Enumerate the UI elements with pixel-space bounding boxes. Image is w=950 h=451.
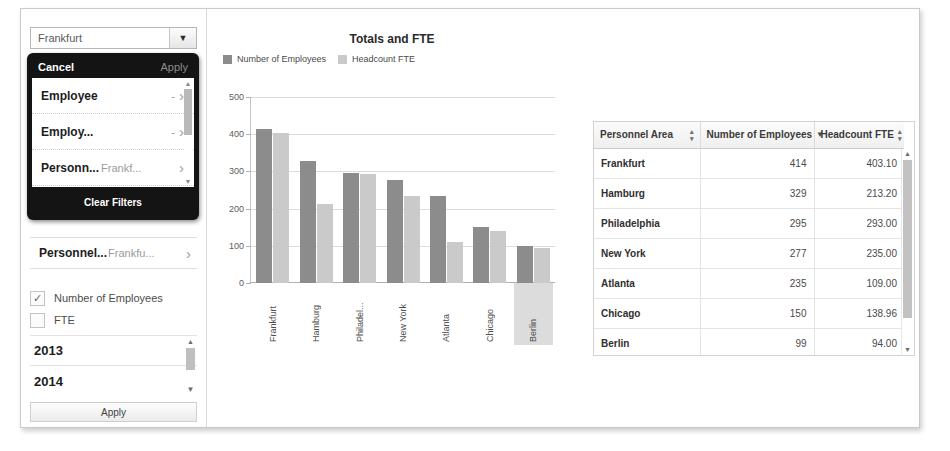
bar-fte[interactable] (317, 204, 333, 283)
bar-group[interactable] (343, 173, 376, 283)
bar-fte[interactable] (273, 133, 289, 283)
y-tick-mark (246, 134, 251, 135)
bar-employees[interactable] (517, 246, 533, 283)
scroll-down-icon[interactable]: ▼ (184, 178, 192, 185)
table-row[interactable]: Berlin9994.00 (594, 328, 904, 356)
x-axis-label-philadel[interactable]: Philadel... (340, 283, 379, 345)
table-row[interactable]: Atlanta235109.00 (594, 268, 904, 298)
cell-personnel-area: Chicago (594, 298, 700, 328)
scrollbar-thumb[interactable] (186, 348, 195, 370)
filter-row-employ-truncated[interactable]: Employ... - › (32, 114, 194, 150)
scroll-down-icon[interactable]: ▼ (902, 345, 913, 354)
x-axis-label-frankfurt[interactable]: Frankfurt (253, 283, 292, 345)
x-axis-label-hamburg[interactable]: Hamburg (297, 283, 336, 345)
cancel-button[interactable]: Cancel (38, 61, 74, 73)
bar-fte[interactable] (404, 196, 420, 283)
table-row[interactable]: Hamburg329213.20 (594, 178, 904, 208)
y-tick-label: 400 (229, 129, 244, 139)
x-axis-label-berlin[interactable]: Berlin (514, 283, 553, 345)
cell-headcount-fte: 403.10 (814, 148, 904, 178)
checkbox-unchecked-icon[interactable] (30, 313, 45, 328)
year-list-scrollbar[interactable]: ▲ ▼ (186, 338, 195, 394)
gridline (251, 97, 555, 98)
column-header-headcount-fte[interactable]: Headcount FTE ▴ ▾ (814, 122, 904, 148)
clear-filters-button[interactable]: Clear Filters (32, 192, 194, 212)
bar-group[interactable] (387, 180, 420, 283)
checkbox-row-fte[interactable]: FTE (30, 309, 197, 331)
x-tick-label: New York (398, 283, 408, 345)
combobox-value[interactable]: Frankfurt (31, 32, 169, 44)
scrollbar-thumb[interactable] (184, 89, 192, 135)
x-axis-label-newyork[interactable]: New York (384, 283, 423, 345)
x-tick-label: Philadel... (355, 283, 365, 345)
chart-legend: Number of Employees Headcount FTE (223, 54, 415, 64)
filter-row-dash: - (171, 90, 175, 102)
bar-employees[interactable] (387, 180, 403, 283)
bar-group[interactable] (473, 227, 506, 283)
gridline (251, 171, 555, 172)
bar-employees[interactable] (430, 196, 446, 283)
chart-title: Totals and FTE (207, 32, 577, 46)
bar-group[interactable] (300, 161, 333, 283)
checkbox-row-number-of-employees[interactable]: ✓ Number of Employees (30, 287, 197, 309)
column-header-number-of-employees[interactable]: Number of Employees ▼ (700, 122, 814, 148)
sort-both-icon[interactable]: ▴ ▾ (898, 128, 902, 142)
scroll-up-icon[interactable]: ▲ (184, 80, 192, 87)
column-header-personnel-area[interactable]: Personnel Area ▴ ▾ (594, 122, 700, 148)
bar-employees[interactable] (343, 173, 359, 283)
x-tick-label: Atlanta (441, 283, 451, 345)
filter-row-label: Employee (41, 89, 98, 103)
bar-fte[interactable] (490, 231, 506, 283)
table-row[interactable]: New York277235.00 (594, 238, 904, 268)
bar-group[interactable] (517, 246, 550, 283)
table-row[interactable]: Frankfurt414403.10 (594, 148, 904, 178)
filter-row-label: Employ... (41, 125, 93, 139)
apply-button-popup[interactable]: Apply (160, 61, 188, 73)
bar-employees[interactable] (473, 227, 489, 283)
filter-row-employee[interactable]: Employee - › (32, 78, 194, 114)
personnel-filter-value: Frankfu... (108, 247, 186, 259)
table-row[interactable]: Chicago150138.96 (594, 298, 904, 328)
personnel-area-combobox[interactable]: Frankfurt ▼ (30, 27, 197, 49)
table-row[interactable]: Philadelphia295293.00 (594, 208, 904, 238)
bar-fte[interactable] (534, 248, 550, 283)
gridline (251, 134, 555, 135)
bar-group[interactable] (256, 129, 289, 283)
x-tick-label: Berlin (528, 283, 538, 345)
chevron-down-icon[interactable]: ▼ (169, 28, 196, 48)
filter-row-dash: - (171, 126, 175, 138)
bar-employees[interactable] (300, 161, 316, 283)
y-axis-line (250, 97, 251, 283)
bar-fte[interactable] (360, 174, 376, 283)
scrollbar-thumb[interactable] (903, 160, 912, 318)
table-scrollbar[interactable]: ▲ ▼ (901, 149, 913, 354)
cell-number-of-employees: 150 (700, 298, 814, 328)
cell-personnel-area: Berlin (594, 328, 700, 356)
scroll-up-icon[interactable]: ▲ (186, 338, 195, 346)
year-item-2013[interactable]: 2013 (30, 336, 197, 366)
x-axis-label-chicago[interactable]: Chicago (470, 283, 509, 345)
cell-headcount-fte: 94.00 (814, 328, 904, 356)
personnel-filter-label: Personnel... (39, 246, 107, 260)
chevron-right-icon[interactable]: › (186, 245, 191, 262)
x-axis-label-atlanta[interactable]: Atlanta (427, 283, 466, 345)
legend-swatch-icon (223, 55, 232, 64)
filter-popup-scrollbar[interactable]: ▲ ▼ (184, 80, 192, 185)
cell-number-of-employees: 295 (700, 208, 814, 238)
x-tick-label: Frankfurt (268, 283, 278, 345)
cell-headcount-fte: 138.96 (814, 298, 904, 328)
apply-button[interactable]: Apply (30, 402, 197, 422)
sort-both-icon[interactable]: ▴ ▾ (690, 128, 694, 142)
checkbox-checked-icon[interactable]: ✓ (30, 291, 45, 306)
scroll-down-icon[interactable]: ▼ (186, 386, 195, 394)
year-item-2014[interactable]: 2014 (30, 366, 197, 396)
scroll-up-icon[interactable]: ▲ (902, 149, 913, 158)
personnel-area-filter-row[interactable]: Personnel... Frankfu... › (30, 237, 197, 269)
data-table-panel: Personnel Area ▴ ▾ Number of Employees ▼ (593, 121, 915, 356)
bar-fte[interactable] (447, 242, 463, 283)
bar-employees[interactable] (256, 129, 272, 283)
cell-personnel-area: Frankfurt (594, 148, 700, 178)
filter-row-personnel-area[interactable]: Personn... Frankf... › (32, 150, 194, 186)
bar-group[interactable] (430, 196, 463, 283)
data-table: Personnel Area ▴ ▾ Number of Employees ▼ (594, 122, 904, 356)
